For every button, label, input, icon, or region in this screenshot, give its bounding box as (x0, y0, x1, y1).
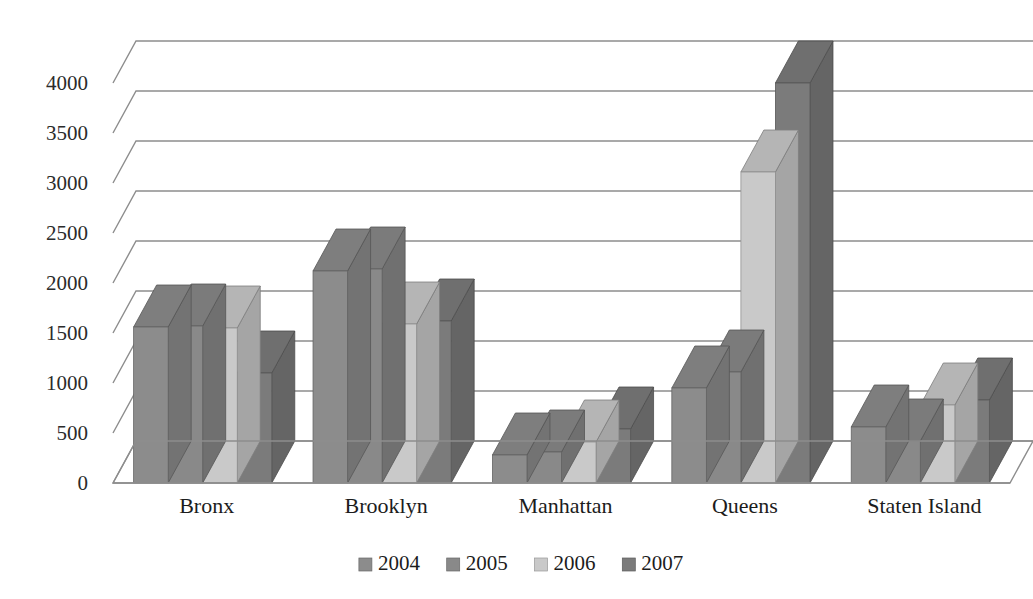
bar-side-face (348, 229, 371, 483)
x-axis-category-label: Manhattan (518, 493, 612, 518)
gridline (113, 241, 1033, 283)
legend-item-2007[interactable]: 2007 (622, 551, 683, 575)
legend-item-2005[interactable]: 2005 (447, 551, 508, 575)
bar-side-face (810, 41, 833, 483)
gridline (113, 141, 1033, 183)
bar-front-face (492, 455, 527, 483)
legend-label: 2004 (378, 551, 421, 575)
chart-container: 05001000150020002500300035004000 BronxBr… (0, 0, 1033, 599)
bar-side-face (382, 227, 405, 483)
bar-front-face (672, 388, 707, 483)
bar-side-face (775, 130, 798, 483)
x-axis-category-labels: BronxBrooklynManhattanQueensStaten Islan… (179, 493, 981, 518)
bar-front-face (313, 271, 348, 483)
legend-swatch (359, 558, 372, 571)
y-axis-tick-label: 2000 (46, 271, 88, 295)
x-axis-category-label: Queens (712, 493, 778, 518)
y-axis-tick-label: 1000 (46, 371, 88, 395)
bar-brooklyn-2004 (313, 229, 371, 483)
legend-item-2004[interactable]: 2004 (359, 551, 421, 575)
bars-group (134, 41, 1013, 483)
y-axis-tick-label: 0 (78, 471, 89, 495)
y-axis-tick-label: 3000 (46, 171, 88, 195)
y-axis-tick-label: 500 (57, 421, 89, 445)
bar-front-face (134, 327, 169, 483)
legend-label: 2006 (554, 551, 596, 575)
x-axis-category-label: Staten Island (867, 493, 981, 518)
bar-front-face (851, 427, 886, 483)
y-axis-tick-label: 4000 (46, 71, 88, 95)
legend-label: 2007 (641, 551, 683, 575)
legend-swatch (622, 558, 635, 571)
gridline (113, 41, 1033, 83)
legend-swatch (447, 558, 460, 571)
y-axis-tick-label: 2500 (46, 221, 88, 245)
x-axis-category-label: Bronx (179, 493, 234, 518)
y-axis-tick-labels: 05001000150020002500300035004000 (46, 71, 88, 495)
bar-bronx-2004 (134, 285, 192, 483)
y-axis-tick-label: 3500 (46, 121, 88, 145)
y-axis-tick-label: 1500 (46, 321, 88, 345)
gridline (113, 91, 1033, 133)
legend-swatch (535, 558, 548, 571)
legend-item-2006[interactable]: 2006 (535, 551, 596, 575)
legend: 2004200520062007 (359, 551, 683, 575)
bar-chart-3d: 05001000150020002500300035004000 BronxBr… (0, 0, 1033, 599)
legend-label: 2005 (466, 551, 508, 575)
gridline (113, 191, 1033, 233)
x-axis-category-label: Brooklyn (345, 493, 428, 518)
